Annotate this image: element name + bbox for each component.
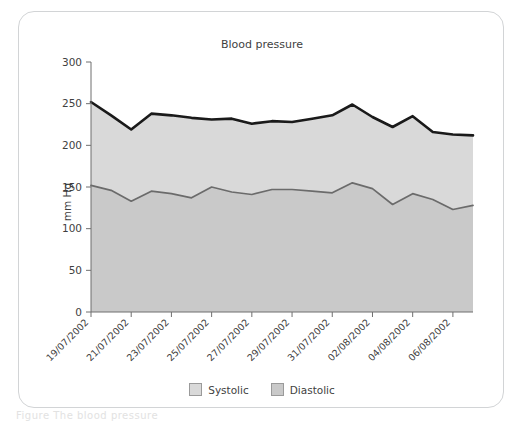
x-tick-label: 21/07/2002 bbox=[84, 317, 131, 364]
x-tick-label: 04/08/2002 bbox=[366, 317, 413, 364]
y-tick-label: 50 bbox=[69, 264, 82, 276]
chart-legend: Systolic Diastolic bbox=[19, 383, 505, 396]
area-diastolic bbox=[91, 183, 473, 312]
x-axis-tick-labels: 19/07/200221/07/200223/07/200225/07/2002… bbox=[44, 317, 452, 364]
x-tick-label: 23/07/2002 bbox=[124, 317, 171, 364]
x-tick-label: 27/07/2002 bbox=[205, 317, 252, 364]
legend-swatch-diastolic bbox=[271, 383, 284, 396]
legend-label-systolic: Systolic bbox=[208, 384, 249, 396]
y-tick-label: 300 bbox=[62, 56, 82, 68]
area-series-group bbox=[91, 102, 473, 312]
y-axis-tick-labels: 050100150200250300 bbox=[62, 56, 82, 318]
y-tick-label: 150 bbox=[62, 181, 82, 193]
y-axis-ticks bbox=[86, 62, 91, 312]
x-tick-label: 31/07/2002 bbox=[285, 317, 332, 364]
legend-item-diastolic: Diastolic bbox=[271, 383, 335, 396]
y-tick-label: 0 bbox=[75, 306, 82, 318]
figure-caption: Figure The blood pressure bbox=[16, 410, 266, 422]
x-tick-label: 29/07/2002 bbox=[245, 317, 292, 364]
chart-title: Blood pressure bbox=[221, 38, 303, 51]
legend-label-diastolic: Diastolic bbox=[290, 384, 335, 396]
y-tick-label: 250 bbox=[62, 97, 82, 109]
y-tick-label: 200 bbox=[62, 139, 82, 151]
x-tick-label: 02/08/2002 bbox=[325, 317, 372, 364]
chart-svg: Blood pressure mm Hg 050100150200250300 bbox=[19, 12, 505, 409]
x-axis-ticks bbox=[91, 312, 453, 317]
x-tick-label: 06/08/2002 bbox=[406, 317, 453, 364]
legend-item-systolic: Systolic bbox=[189, 383, 249, 396]
x-tick-label: 19/07/2002 bbox=[44, 317, 91, 364]
x-tick-label: 25/07/2002 bbox=[165, 317, 212, 364]
figure-card: Blood pressure mm Hg 050100150200250300 bbox=[18, 11, 504, 408]
blood-pressure-chart: Blood pressure mm Hg 050100150200250300 bbox=[19, 12, 505, 409]
y-tick-label: 100 bbox=[62, 222, 82, 234]
legend-swatch-systolic bbox=[189, 383, 202, 396]
